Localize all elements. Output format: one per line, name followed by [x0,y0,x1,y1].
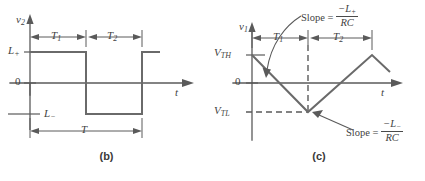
leader-arrow-slope-lower [312,110,323,118]
panel-triangle-wave: v1 t VTH 0 VTL T1 T2 Slope = −L+ RC Slop… [213,0,425,181]
axis-label-t-c: t [381,86,384,98]
fraction-slope-upper: −L+ RC [336,3,358,29]
panel-square-wave: v2 t L+ 0 L− T1 T2 T (b) [0,0,213,181]
dim-label-t1-c: T1 [273,30,283,44]
y-axis-arrowhead [26,14,33,24]
ytick-label-l-minus: L− [44,107,55,121]
x-axis-arrowhead-c [391,79,403,87]
ytick-label-zero-b: 0 [15,75,21,87]
axis-label-t-b: t [175,86,178,98]
dim-label-T: T [81,123,87,135]
x-axis-arrowhead [182,79,194,87]
annotation-slope-upper: Slope = −L+ RC [301,3,358,29]
ytick-label-vth: VTH [214,46,231,60]
axis-label-v1: v1 [239,20,248,34]
caption-panel-b: (b) [0,150,213,162]
annotation-slope-lower: Slope = −L− RC [346,118,403,144]
ytick-label-zero-c: 0 [235,75,241,87]
fraction-slope-lower: −L− RC [381,118,403,144]
dim-label-t2-b: T2 [107,29,117,43]
dim-label-t1-b: T1 [51,29,61,43]
axis-label-v2: v2 [16,13,25,27]
ytick-label-vtl: VTL [214,104,230,118]
ytick-label-l-plus: L+ [8,44,19,58]
caption-panel-c: (c) [213,150,425,162]
dim-label-t2-c: T2 [333,30,343,44]
